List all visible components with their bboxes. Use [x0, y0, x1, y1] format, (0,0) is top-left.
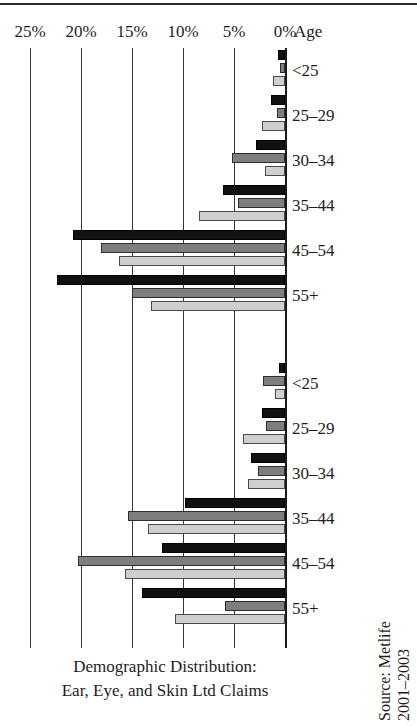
age-group-label: 45–54: [292, 555, 335, 573]
age-group-label: 25–29: [292, 107, 335, 125]
x-axis-tick-labels: 25%20%15%10%5%0%Age: [0, 22, 417, 48]
bar-upper-panel-4554-series-3: [119, 256, 285, 266]
age-group-label: 30–34: [292, 465, 335, 483]
bar-lower-panel-4554-series-2: [78, 556, 285, 566]
caption-line-2: Ear, Eye, and Skin Ltd Claims: [0, 679, 330, 703]
bar-upper-panel-3544-series-3: [199, 211, 285, 221]
figure-bar-chart: 25%20%15%10%5%0%Age <2525–2930–3435–4445…: [0, 0, 417, 726]
x-axis-tick-15pct: 15%: [108, 22, 156, 42]
bar-upper-panel-55+-series-1: [57, 275, 285, 285]
age-group-label: 35–44: [292, 510, 335, 528]
bar-lower-panel-3544-series-2: [128, 511, 285, 521]
gridline-25: [30, 48, 31, 648]
bar-upper-panel-<25-series-2: [280, 63, 285, 73]
age-group-label: 35–44: [292, 197, 335, 215]
bar-upper-panel-3034-series-2: [232, 153, 285, 163]
bar-lower-panel-4554-series-3: [125, 569, 285, 579]
bar-lower-panel-55+-series-3: [175, 614, 285, 624]
x-axis-tick-5pct: 5%: [210, 22, 258, 42]
source-note: Source: Metlife 2001–2003: [375, 545, 415, 721]
age-group-label: 55+: [292, 287, 319, 305]
bar-lower-panel-55+-series-1: [142, 588, 285, 598]
age-group-label: <25: [292, 375, 319, 393]
bar-upper-panel-3034-series-3: [265, 166, 285, 176]
age-group-label: 30–34: [292, 152, 335, 170]
bar-lower-panel-3034-series-3: [248, 479, 285, 489]
age-group-label: 25–29: [292, 420, 335, 438]
top-rule-divider: [0, 3, 417, 5]
zero-axis-line: [285, 48, 287, 648]
bar-lower-panel-3034-series-2: [258, 466, 285, 476]
bar-lower-panel-2529-series-3: [243, 434, 285, 444]
bar-upper-panel-2529-series-3: [262, 121, 285, 131]
bar-upper-panel-55+-series-3: [151, 301, 285, 311]
bar-lower-panel-3034-series-1: [251, 453, 285, 463]
bar-lower-panel-55+-series-2: [225, 601, 285, 611]
bar-lower-panel-4554-series-1: [162, 543, 285, 553]
age-group-label: <25: [292, 62, 319, 80]
figure-caption: Demographic Distribution: Ear, Eye, and …: [0, 655, 330, 703]
bar-upper-panel-2529-series-1: [271, 95, 285, 105]
bar-upper-panel-55+-series-2: [132, 288, 285, 298]
bar-lower-panel-<25-series-1: [279, 363, 285, 373]
source-line-1: Source: Metlife: [375, 545, 394, 721]
bar-upper-panel-3544-series-2: [238, 198, 285, 208]
x-axis-tick-10pct: 10%: [159, 22, 207, 42]
bar-upper-panel-<25-series-1: [278, 50, 285, 60]
bar-upper-panel-2529-series-2: [277, 108, 285, 118]
source-line-2: 2001–2003: [394, 545, 413, 721]
caption-line-1: Demographic Distribution:: [0, 655, 330, 679]
age-column-header: Age: [294, 22, 322, 42]
plot-area: <2525–2930–3435–4445–5455+<2525–2930–343…: [0, 48, 417, 648]
bar-lower-panel-<25-series-2: [263, 376, 285, 386]
bar-lower-panel-2529-series-1: [262, 408, 285, 418]
bar-upper-panel-4554-series-2: [101, 243, 285, 253]
bar-lower-panel-3544-series-3: [148, 524, 285, 534]
bar-lower-panel-2529-series-2: [266, 421, 285, 431]
age-group-label: 45–54: [292, 242, 335, 260]
age-group-label: 55+: [292, 600, 319, 618]
bar-upper-panel-4554-series-1: [73, 230, 285, 240]
bar-upper-panel-3544-series-1: [223, 185, 285, 195]
bar-lower-panel-3544-series-1: [185, 498, 285, 508]
x-axis-tick-20pct: 20%: [57, 22, 105, 42]
bar-upper-panel-<25-series-3: [273, 76, 285, 86]
bar-lower-panel-<25-series-3: [275, 389, 285, 399]
x-axis-tick-25pct: 25%: [6, 22, 54, 42]
bar-upper-panel-3034-series-1: [256, 140, 285, 150]
